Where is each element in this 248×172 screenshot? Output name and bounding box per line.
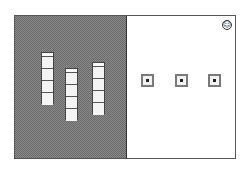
drop-target-1[interactable] [141, 74, 154, 87]
target-inner [143, 76, 152, 85]
target-dot-icon [180, 79, 183, 82]
drop-target-3[interactable] [208, 74, 221, 87]
game-frame: ☺ [14, 15, 236, 159]
target-dot-icon [213, 79, 216, 82]
block-cell [42, 69, 53, 81]
target-dot-icon [146, 79, 149, 82]
drop-target-2[interactable] [175, 74, 188, 87]
block-tray-panel [15, 16, 127, 158]
block-cell [42, 57, 53, 69]
block-cell [93, 103, 104, 115]
block-column-3[interactable] [92, 62, 105, 114]
block-cell [93, 79, 104, 91]
block-column-1[interactable] [41, 52, 54, 104]
block-cell [93, 91, 104, 103]
block-column-2[interactable] [65, 68, 78, 120]
block-cell [66, 73, 77, 85]
target-inner [210, 76, 219, 85]
smiley-icon[interactable]: ☺ [222, 20, 232, 30]
target-inner [177, 76, 186, 85]
block-cell [42, 93, 53, 105]
block-cell [42, 81, 53, 93]
block-cell [66, 97, 77, 109]
block-cell [66, 109, 77, 121]
block-cell [66, 85, 77, 97]
block-cell [93, 67, 104, 79]
